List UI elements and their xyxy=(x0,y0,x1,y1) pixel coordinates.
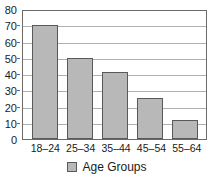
y-tick-label-0: 0 xyxy=(11,135,17,146)
y-tick-label-30: 30 xyxy=(5,86,17,97)
bar xyxy=(32,25,58,139)
bar xyxy=(137,98,163,139)
legend-swatch-age-groups xyxy=(67,162,77,172)
x-tick-label: 55–64 xyxy=(172,141,198,157)
y-tick-mark-10 xyxy=(17,123,20,124)
bar xyxy=(172,120,198,140)
y-tick-label-10: 10 xyxy=(5,118,17,129)
chart-legend: Age Groups xyxy=(0,160,214,174)
legend-label-age-groups: Age Groups xyxy=(82,160,146,174)
x-axis: 18–2425–3435–4445–5455–64 xyxy=(22,141,207,157)
y-tick-mark-30 xyxy=(17,90,20,91)
bar xyxy=(102,72,128,139)
x-tick-label: 18–24 xyxy=(31,141,57,157)
y-tick-label-40: 40 xyxy=(5,70,17,81)
bar-chart: 01020304050607080 18–2425–3435–4445–5455… xyxy=(0,0,214,180)
plot-area xyxy=(22,10,207,140)
y-tick-label-70: 70 xyxy=(5,21,17,32)
y-axis: 01020304050607080 xyxy=(0,10,20,140)
bar xyxy=(67,58,93,139)
chart-title-clipped xyxy=(0,0,214,4)
y-tick-label-20: 20 xyxy=(5,102,17,113)
y-tick-label-60: 60 xyxy=(5,37,17,48)
bar-series-age-groups xyxy=(23,11,206,139)
y-tick-mark-40 xyxy=(17,74,20,75)
y-tick-mark-60 xyxy=(17,42,20,43)
y-tick-mark-50 xyxy=(17,58,20,59)
y-tick-mark-20 xyxy=(17,107,20,108)
y-tick-mark-70 xyxy=(17,25,20,26)
x-tick-label: 45–54 xyxy=(137,141,163,157)
x-tick-label: 25–34 xyxy=(66,141,92,157)
y-tick-label-80: 80 xyxy=(5,5,17,16)
y-tick-label-50: 50 xyxy=(5,53,17,64)
x-tick-label: 35–44 xyxy=(101,141,127,157)
